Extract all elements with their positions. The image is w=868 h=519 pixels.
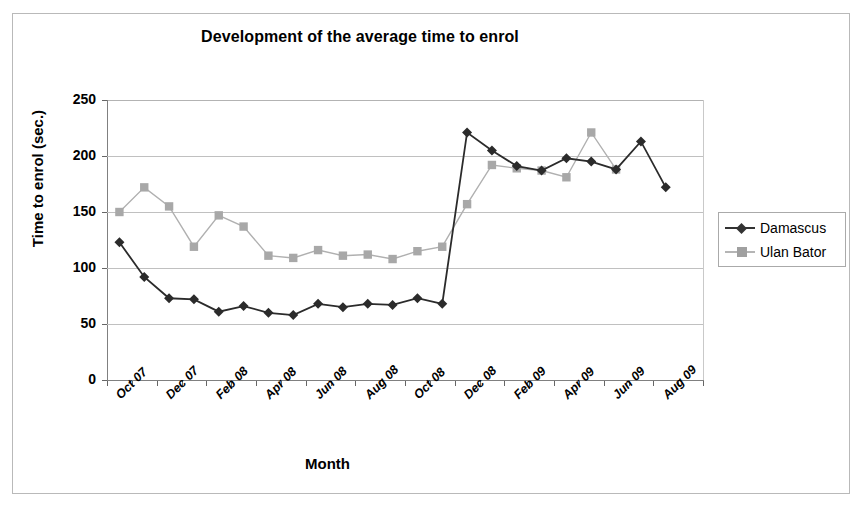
- data-point-damascus: [239, 301, 249, 311]
- legend-item-ulan-bator[interactable]: Ulan Bator: [725, 241, 826, 263]
- legend-line-damascus: [725, 227, 755, 229]
- data-point-ulan-bator: [165, 202, 173, 210]
- data-point-damascus: [338, 302, 348, 312]
- data-point-damascus: [586, 157, 596, 167]
- data-point-ulan-bator: [463, 200, 471, 208]
- data-point-ulan-bator: [413, 247, 421, 255]
- data-point-damascus: [288, 310, 298, 320]
- data-point-damascus: [388, 300, 398, 310]
- data-point-ulan-bator: [215, 211, 223, 219]
- chart-screenshot: Development of the average time to enrol…: [0, 0, 868, 519]
- legend-item-damascus[interactable]: Damascus: [725, 217, 826, 239]
- series-line-ulan-bator: [119, 132, 616, 259]
- data-point-ulan-bator: [314, 246, 322, 254]
- data-point-damascus: [561, 153, 571, 163]
- legend-label-ulan-bator: Ulan Bator: [760, 244, 826, 260]
- data-point-ulan-bator: [587, 128, 595, 136]
- data-point-damascus: [313, 299, 323, 309]
- data-point-damascus: [363, 299, 373, 309]
- data-point-ulan-bator: [438, 243, 446, 251]
- square-icon: [737, 247, 747, 257]
- data-point-ulan-bator: [339, 251, 347, 259]
- data-point-ulan-bator: [488, 161, 496, 169]
- data-point-ulan-bator: [289, 254, 297, 262]
- data-point-damascus: [189, 294, 199, 304]
- data-point-ulan-bator: [115, 208, 123, 216]
- data-point-damascus: [661, 182, 671, 192]
- data-point-damascus: [412, 293, 422, 303]
- data-point-ulan-bator: [264, 251, 272, 259]
- data-point-damascus: [263, 308, 273, 318]
- legend-label-damascus: Damascus: [760, 220, 826, 236]
- data-point-ulan-bator: [140, 183, 148, 191]
- data-point-ulan-bator: [562, 173, 570, 181]
- data-point-damascus: [437, 299, 447, 309]
- data-point-ulan-bator: [388, 255, 396, 263]
- legend: Damascus Ulan Bator: [718, 212, 846, 267]
- legend-line-ulan-bator: [725, 251, 755, 253]
- series-line-damascus: [119, 132, 665, 315]
- diamond-icon: [736, 223, 747, 234]
- data-point-ulan-bator: [190, 243, 198, 251]
- data-point-ulan-bator: [239, 222, 247, 230]
- data-point-damascus: [214, 307, 224, 317]
- data-point-ulan-bator: [364, 250, 372, 258]
